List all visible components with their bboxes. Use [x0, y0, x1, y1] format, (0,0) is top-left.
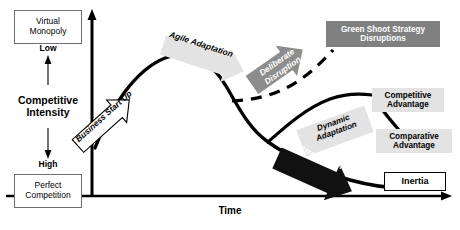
high-direction-arrow [45, 128, 52, 159]
diagram-canvas: Virtual Monopoly Low Competitive Intensi… [0, 0, 460, 230]
comparative-advantage-box: Comparative Advantage [376, 129, 452, 153]
virtual-monopoly-box: Virtual Monopoly [14, 10, 82, 44]
y-axis-title: Competitive Intensity [2, 95, 94, 123]
axis-label-high: High [14, 160, 82, 172]
axis-label-low: Low [14, 44, 82, 56]
green-shoot-strategy-box: Green Shoot Strategy Disruptions [326, 21, 440, 47]
low-direction-arrow [45, 55, 52, 85]
competitive-advantage-box: Competitive Advantage [372, 88, 444, 112]
inertia-box: Inertia [384, 172, 446, 191]
x-axis-title: Time [195, 205, 265, 219]
perfect-competition-box: Perfect Competition [14, 174, 82, 208]
